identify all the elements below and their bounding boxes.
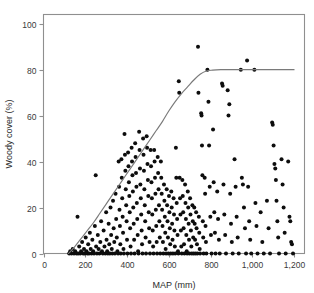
data-point [130,173,134,177]
data-point [188,196,192,200]
data-point [244,252,248,256]
data-point [136,233,140,237]
data-point [126,164,130,168]
data-point [254,224,258,228]
data-point [154,208,158,212]
data-point [156,171,160,175]
data-point [140,252,144,256]
data-point [240,176,244,180]
data-point [149,148,153,152]
data-point [144,235,148,239]
data-point [287,215,291,219]
data-point [196,91,200,95]
data-point [203,192,207,196]
data-point [256,252,260,256]
data-point [129,245,133,249]
data-point [290,242,294,246]
data-point [135,201,139,205]
data-point [121,231,125,235]
data-point [156,155,160,159]
data-point [211,127,215,131]
data-point [200,143,204,147]
data-point [212,210,216,214]
data-point [93,224,97,228]
data-point [198,252,202,256]
data-point [138,183,142,187]
data-point [127,194,131,198]
data-point [107,242,111,246]
woody-cover-scatter-figure: 02004006008001,0001,200 020406080100 MAP… [0,0,314,293]
data-point [229,222,233,226]
data-point [176,233,180,237]
data-point [249,252,253,256]
data-point [125,252,129,256]
plot-frame [44,15,305,254]
data-point [183,201,187,205]
data-point [265,199,269,203]
data-point [88,231,92,235]
data-point [146,178,150,182]
data-point [267,226,271,230]
data-point [119,157,123,161]
data-point [246,185,250,189]
data-point [138,148,142,152]
data-point [150,196,154,200]
data-point [173,245,177,249]
data-point [186,189,190,193]
data-point [147,210,151,214]
data-point [273,166,277,170]
data-point [204,224,208,228]
data-point [172,212,176,216]
data-point [194,210,198,214]
data-point [182,242,186,246]
data-point [259,210,263,214]
data-point [283,231,287,235]
data-point [102,229,106,233]
data-point [195,242,199,246]
data-point [168,226,172,230]
data-point [215,189,219,193]
data-point [193,222,197,226]
data-point [84,235,88,239]
data-point [134,171,138,175]
data-point [131,206,135,210]
data-point [217,238,221,242]
data-point [222,212,226,216]
data-point [153,160,157,164]
data-point [253,201,257,205]
data-point [127,180,131,184]
x-tick-label: 0 [42,260,47,270]
data-point [146,194,150,198]
data-point [124,187,128,191]
data-point [159,176,163,180]
data-point [291,252,295,256]
data-point [118,224,122,228]
x-tick-label: 400 [120,260,134,270]
y-tick-label: 60 [27,112,37,122]
data-point [286,160,290,164]
data-point [183,183,187,187]
data-point [237,252,241,256]
data-point [160,192,164,196]
x-tick-label: 1,000 [242,260,264,270]
data-point [128,210,132,214]
data-point [181,194,185,198]
data-point [157,203,161,207]
data-point [241,183,245,187]
data-point [233,157,237,161]
data-point [193,238,197,242]
data-point [161,240,165,244]
data-point [133,252,137,256]
data-point [163,231,167,235]
data-point [170,206,174,210]
data-point [86,242,90,246]
data-point [144,252,148,256]
data-point [132,222,136,226]
data-point [107,222,111,226]
data-point [138,166,142,170]
data-point [98,240,102,244]
data-point [213,231,217,235]
data-point [165,187,169,191]
data-point [175,217,179,221]
data-point [276,235,280,239]
